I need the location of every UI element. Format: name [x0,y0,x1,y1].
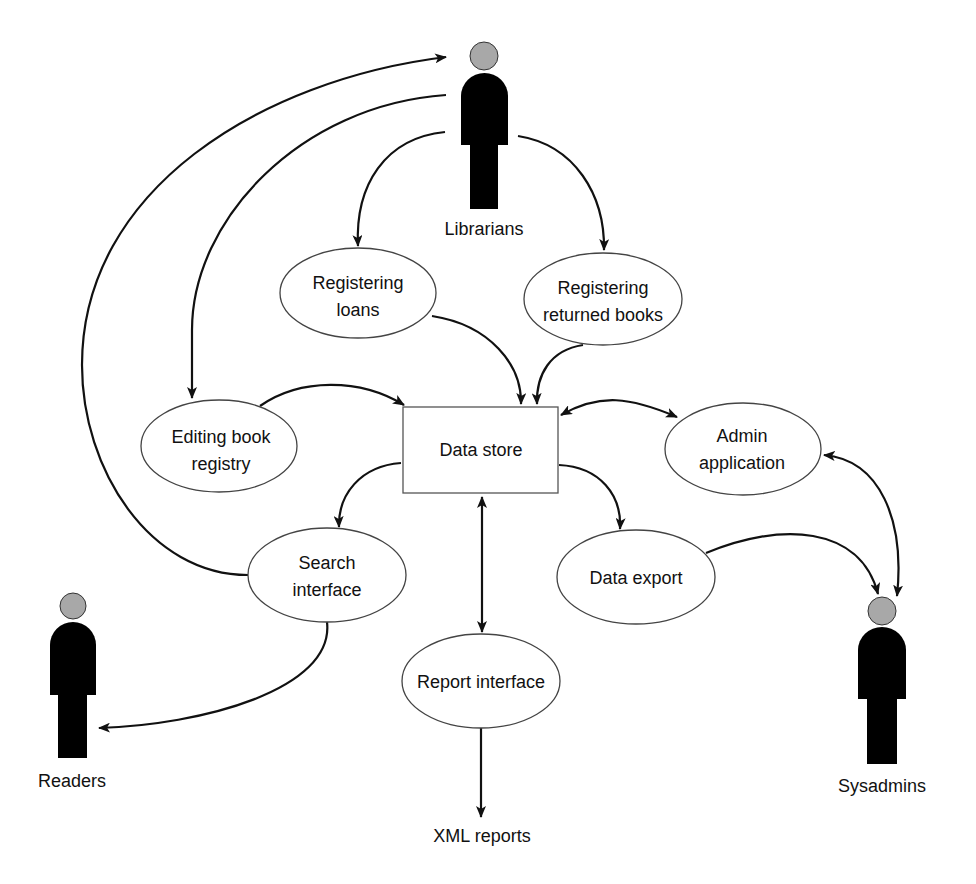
person-icon [858,597,906,764]
process-label: Data export [589,568,682,588]
process-search-interface: Search interface [248,528,406,622]
process-label-line2: interface [292,580,361,600]
edge-search-to-readers [99,622,327,728]
process-report-interface: Report interface [402,634,560,728]
actor-label: Sysadmins [838,776,926,796]
edge-store-to-export [559,465,620,529]
data-store-label: Data store [439,440,522,460]
edge-librarians-to-loans [358,132,445,246]
actor-sysadmins: Sysadmins [838,597,926,796]
person-icon [50,593,96,758]
process-editing-book-registry: Editing book registry [141,400,297,492]
process-label-line1: Registering [312,273,403,293]
process-registering-returned-books: Registering returned books [524,253,682,345]
data-store: Data store [403,407,558,493]
edge-librarians-to-returned [518,136,604,250]
process-label-line2: returned books [543,305,663,325]
edge-store-admin [561,400,677,417]
process-registering-loans: Registering loans [280,248,436,338]
process-label-line1: Registering [557,278,648,298]
actor-librarians: Librarians [444,42,523,239]
actor-readers: Readers [38,593,106,791]
edge-editing-to-store [260,385,404,406]
edge-store-to-search [339,463,401,527]
actor-label: Readers [38,771,106,791]
process-data-export: Data export [557,530,715,624]
process-label: Report interface [417,672,545,692]
edge-loans-to-store [432,316,521,404]
process-label-line2: registry [191,454,250,474]
edge-librarians-to-editing [192,95,446,398]
actor-label: Librarians [444,219,523,239]
process-label-line1: Editing book [171,427,271,447]
edge-export-to-sysadmins [706,534,878,594]
process-admin-application: Admin application [665,403,821,495]
process-label-line2: loans [336,300,379,320]
process-label-line1: Admin [716,426,767,446]
person-icon [461,42,508,209]
process-label-line1: Search [298,553,355,573]
output-xml-reports: XML reports [433,826,530,846]
edge-returned-to-store [537,345,583,404]
process-label-line2: application [699,453,785,473]
edge-admin-sysadmins [824,455,898,596]
data-flow-diagram: Librarians Readers Sysadmins Registering… [0,0,976,884]
